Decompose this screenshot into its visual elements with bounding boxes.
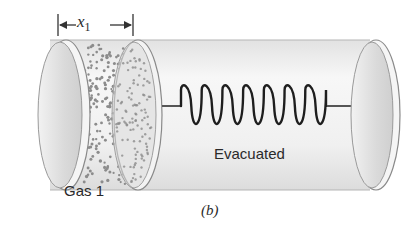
diagram-svg [0,0,413,230]
dimension-label: x1 [77,12,91,35]
panel-label: (b) [201,202,219,219]
gas-piston-spring-diagram: x1 Gas 1 Evacuated (b) [0,0,413,230]
dimension-arrow [58,14,133,36]
evacuated-label: Evacuated [214,145,285,162]
right-end-cap [351,40,400,190]
left-end-cap [38,40,90,190]
gas-label: Gas 1 [64,182,104,199]
